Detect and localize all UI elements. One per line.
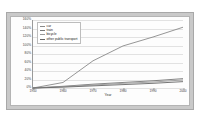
chart-x-tick: 2000: [179, 88, 186, 93]
legend-line-swatch-icon: [40, 26, 45, 27]
chart-x-tick-label: 1980: [119, 90, 126, 93]
legend-line-swatch-icon: [40, 34, 45, 35]
chart-x-tick: 1990: [149, 88, 156, 93]
chart-x-tick-mark: [183, 88, 184, 90]
chart-y-tick-label: 80%: [25, 52, 31, 55]
chart-x-tick: 1950: [29, 88, 36, 93]
chart-legend-item[interactable]: other public transport: [40, 37, 77, 41]
chart-frame: 160%140%120%100%80%60%40%20%0% 195019601…: [6, 12, 194, 110]
legend-line-swatch-icon: [40, 30, 45, 31]
chart-x-axis-title: Year: [105, 94, 112, 97]
chart-y-tick-label: 140%: [23, 27, 31, 30]
chart-x-tick: 1960: [59, 88, 66, 93]
chart-x-tick-label: 1990: [149, 90, 156, 93]
chart-series-other-public-transport: [33, 82, 183, 88]
chart-y-tick-label: 60%: [25, 61, 31, 64]
chart-x-tick: 1970: [89, 88, 96, 93]
chart-legend-label: other public transport: [47, 38, 78, 41]
chart-legend: cartrainbicycleother public transport: [37, 22, 81, 44]
chart-x-tick-mark: [123, 88, 124, 90]
chart-y-tick-label: 20%: [25, 78, 31, 81]
chart-y-tick-label: 160%: [23, 18, 31, 21]
chart-y-tick-label: 120%: [23, 35, 31, 38]
chart-x-tick: 1980: [119, 88, 126, 93]
chart-x-tick-mark: [93, 88, 94, 90]
chart-x-tick-label: 1950: [29, 90, 36, 93]
chart-x-tick-mark: [153, 88, 154, 90]
chart-x-tick-label: 1970: [89, 90, 96, 93]
chart-x-tick-label: 2000: [179, 90, 186, 93]
legend-line-swatch-icon: [40, 39, 45, 40]
chart-x-tick-label: 1960: [59, 90, 66, 93]
chart-y-tick-label: 100%: [23, 44, 31, 47]
chart-plot-area: 160%140%120%100%80%60%40%20%0% 195019601…: [32, 20, 183, 89]
chart-x-tick-mark: [63, 88, 64, 90]
chart-y-tick-label: 40%: [25, 69, 31, 72]
chart-gridline: [33, 88, 183, 89]
chart-plot-background: 160%140%120%100%80%60%40%20%0% 195019601…: [10, 16, 190, 106]
